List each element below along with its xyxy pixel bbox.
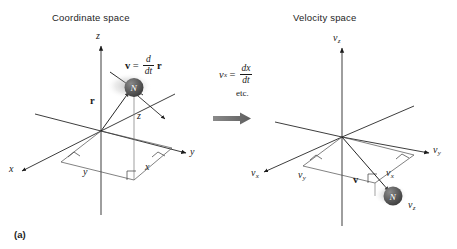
figure-panel-label: (a) bbox=[14, 229, 26, 240]
velocity-projection-label-vx-subscript: x bbox=[391, 172, 394, 180]
equation-fraction: d dt bbox=[143, 55, 154, 77]
velocity-projection-label-vz-subscript: z bbox=[413, 204, 416, 212]
velocity-axis-label-vy-subscript: y bbox=[438, 149, 441, 157]
equation-rhs: r bbox=[157, 60, 162, 71]
velocity-space-velocity-vector bbox=[342, 137, 389, 191]
velocity-particle-label: N bbox=[390, 192, 397, 202]
coordinate-axis-label-z: z bbox=[96, 30, 100, 41]
velocity-axis-label-vx-subscript: x bbox=[256, 172, 259, 180]
velocity-projection-label-vy-subscript: y bbox=[303, 174, 306, 182]
velocity-axis-label-vz-subscript: z bbox=[338, 37, 341, 45]
velocity-axis-label-vy-base: v bbox=[433, 144, 437, 155]
equation-lhs: v bbox=[125, 60, 130, 71]
transform-equation-lhs-subscript: x bbox=[224, 71, 227, 79]
equation-equals: = bbox=[133, 60, 139, 71]
coordinate-projection-box bbox=[61, 88, 172, 180]
velocity-projection-label-vy-base: v bbox=[298, 169, 302, 180]
velocity-projection-label-vz-base: v bbox=[408, 199, 412, 210]
equation-denominator: dt bbox=[143, 65, 154, 76]
coordinate-projection-label-y: y bbox=[83, 166, 87, 177]
diagram-linework bbox=[0, 0, 457, 249]
transform-equation-lhs: v bbox=[219, 69, 224, 80]
transform-equation: v x = dx dt bbox=[219, 64, 254, 86]
equation-numerator: d bbox=[144, 55, 153, 65]
velocity-axis-label-vy: vy bbox=[433, 144, 441, 157]
transform-equation-denominator: dt bbox=[240, 74, 251, 85]
coordinate-axis-label-x: x bbox=[9, 163, 13, 174]
coordinate-projection-label-z: z bbox=[137, 110, 141, 121]
velocity-projection-label-vz: vz bbox=[408, 199, 415, 212]
velocity-space-vector-label: v bbox=[353, 174, 358, 185]
transform-equation-fraction: dx dt bbox=[240, 64, 253, 86]
transform-equation-note: etc. bbox=[236, 88, 249, 98]
velocity-axis-label-vx: vx bbox=[251, 167, 259, 180]
transform-equation-numerator: dx bbox=[240, 64, 253, 74]
position-vector-label: r bbox=[90, 95, 95, 106]
velocity-axis-label-vz: vz bbox=[333, 32, 340, 45]
coordinate-particle-label: N bbox=[131, 83, 138, 93]
coordinate-projection-label-x: x bbox=[145, 161, 149, 172]
velocity-projection-label-vx-base: v bbox=[386, 167, 390, 178]
transform-equation-equals: = bbox=[230, 69, 236, 80]
velocity-projection-label-vy: vy bbox=[298, 169, 306, 182]
transform-arrow bbox=[213, 113, 251, 125]
velocity-right-angle-marks bbox=[310, 154, 409, 183]
velocity-axis-label-vx-base: v bbox=[251, 167, 255, 178]
velocity-axis-label-vz-base: v bbox=[333, 32, 337, 43]
velocity-definition-equation: v = d dt r bbox=[125, 55, 162, 77]
velocity-projection-label-vx: vx bbox=[386, 167, 394, 180]
coordinate-axis-label-y: y bbox=[190, 146, 194, 157]
figure-container: Coordinate space Velocity space bbox=[0, 0, 457, 249]
